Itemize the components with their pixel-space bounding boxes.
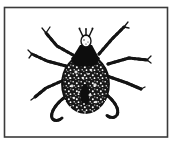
tick-figure xyxy=(0,0,175,151)
tick-illustration xyxy=(28,22,151,120)
tick-head xyxy=(79,28,94,48)
tick-palps xyxy=(79,28,94,37)
tick-body xyxy=(62,45,109,115)
tick-anal-groove xyxy=(81,84,90,106)
illustration-canvas xyxy=(0,0,175,151)
